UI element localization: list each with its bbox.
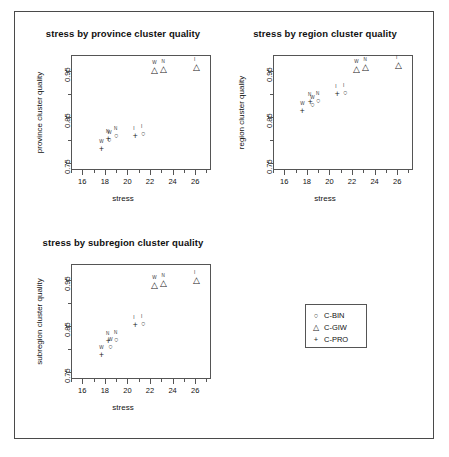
y-tick (270, 140, 273, 141)
x-tick (296, 170, 297, 173)
x-tick (195, 170, 196, 175)
x-tick (206, 379, 207, 382)
data-point-annotation: I (141, 125, 142, 130)
panel-title-region: stress by region cluster quality (225, 28, 425, 39)
y-axis-label: province cluster quality (35, 55, 44, 170)
data-point-c-bin: ○ (314, 97, 322, 105)
x-tick (341, 170, 342, 173)
data-point-c-giw: △ (160, 279, 168, 288)
data-point-c-bin: ○ (139, 130, 147, 138)
data-point-annotation: I (343, 84, 344, 89)
y-tick (68, 140, 71, 141)
x-tick-label: 24 (161, 386, 185, 395)
x-tick (161, 379, 162, 382)
data-point-annotation: I (133, 127, 134, 132)
x-tick (284, 170, 285, 175)
y-tick-label: 0.85 (63, 113, 72, 128)
x-tick (184, 170, 185, 173)
data-point-c-pro: + (104, 337, 112, 346)
y-tick-label: 0.95 (63, 67, 72, 82)
x-tick-label: 18 (295, 177, 319, 186)
data-point-annotation: N (114, 331, 117, 336)
x-tick-label: 26 (183, 177, 207, 186)
legend-label: C-PRO (324, 335, 348, 344)
panel-region: stress by region cluster quality16182022… (225, 18, 425, 218)
panel-subregion: stress by subregion cluster quality16182… (23, 227, 223, 427)
x-tick-label: 20 (317, 177, 341, 186)
x-tick-label: 16 (272, 177, 296, 186)
x-tick (116, 379, 117, 382)
y-axis-label: region cluster quality (237, 55, 246, 170)
x-tick (105, 379, 106, 384)
x-tick (105, 170, 106, 175)
data-point-annotation: I (141, 315, 142, 320)
x-tick-label: 20 (115, 386, 139, 395)
data-point-c-pro: + (298, 107, 306, 116)
y-tick-label: 0.85 (63, 322, 72, 337)
x-tick-label: 16 (70, 386, 94, 395)
x-tick-label: 22 (138, 386, 162, 395)
x-axis-label: stress (23, 403, 223, 412)
x-tick (195, 379, 196, 384)
y-tick-label: 0.75 (63, 159, 72, 174)
data-point-c-pro: + (306, 98, 314, 107)
x-tick (408, 170, 409, 173)
x-tick (307, 170, 308, 175)
x-tick (94, 379, 95, 382)
data-point-c-bin: ○ (139, 320, 147, 328)
y-tick-label: 0.75 (63, 368, 72, 383)
x-tick (116, 170, 117, 173)
data-point-annotation: N (308, 93, 311, 98)
legend-label: C-GIW (324, 323, 347, 332)
data-point-c-pro: + (131, 132, 139, 141)
panel-title-subregion: stress by subregion cluster quality (23, 237, 223, 248)
y-tick-label: 0.75 (265, 159, 274, 174)
y-tick (68, 303, 71, 304)
x-tick (363, 170, 364, 173)
data-point-c-giw: △ (192, 63, 200, 72)
x-tick-label: 16 (70, 177, 94, 186)
x-axis-label: stress (23, 194, 223, 203)
legend-label: C-BIN (324, 311, 344, 320)
data-point-annotation: N (161, 274, 164, 279)
data-point-c-bin: ○ (112, 336, 120, 344)
y-tick (270, 94, 273, 95)
plot-area-region (273, 55, 413, 170)
data-point-annotation: W (99, 346, 103, 351)
data-point-annotation: W (354, 60, 358, 65)
data-point-c-giw: △ (151, 66, 159, 75)
data-point-annotation: I (194, 58, 195, 63)
x-tick (161, 170, 162, 173)
x-tick (318, 170, 319, 173)
data-point-annotation: N (106, 130, 109, 135)
data-point-annotation: I (396, 56, 397, 61)
data-point-annotation: N (114, 127, 117, 132)
triangle-marker: △ (312, 323, 320, 332)
data-point-annotation: N (161, 60, 164, 65)
data-point-c-giw: △ (151, 281, 159, 290)
legend-item-c-pro: +C-PRO (312, 335, 348, 344)
data-point-c-bin: ○ (341, 89, 349, 97)
x-tick-label: 22 (138, 177, 162, 186)
x-tick-label: 18 (93, 386, 117, 395)
x-tick (150, 379, 151, 384)
x-tick (82, 379, 83, 384)
x-tick (329, 170, 330, 175)
legend-item-c-giw: △C-GIW (312, 323, 347, 332)
x-tick-label: 20 (115, 177, 139, 186)
x-tick (150, 170, 151, 175)
legend-box: ○C-BIN△C-GIW+C-PRO (305, 304, 367, 348)
data-point-annotation: N (106, 332, 109, 337)
circle-marker: ○ (312, 311, 320, 320)
data-point-annotation: W (99, 140, 103, 145)
x-tick-label: 26 (183, 386, 207, 395)
x-tick-label: 18 (93, 177, 117, 186)
x-axis-label: stress (225, 194, 425, 203)
x-tick (173, 379, 174, 384)
data-point-annotation: N (316, 92, 319, 97)
data-point-c-giw: △ (160, 65, 168, 74)
data-point-c-pro: + (131, 321, 139, 330)
data-point-c-pro: + (97, 145, 105, 154)
x-tick (352, 170, 353, 175)
x-tick (127, 379, 128, 384)
